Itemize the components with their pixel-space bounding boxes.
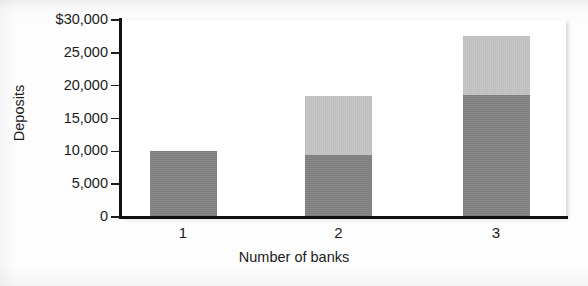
y-axis-tick [111, 52, 120, 54]
bar [150, 151, 217, 217]
bar-segment [305, 155, 372, 217]
y-axis-tick-label: 0 [0, 208, 108, 224]
y-axis-tick-label: 5,000 [0, 175, 108, 191]
x-axis-line [119, 216, 568, 219]
y-axis-title: Deposits [11, 63, 27, 163]
y-axis-tick [111, 216, 120, 218]
bar-chart-figure: 05,00010,00015,00020,00025,000$30,000 12… [0, 0, 588, 286]
bar [305, 96, 372, 217]
y-axis-tick-label: $30,000 [0, 11, 108, 27]
y-axis-tick-label: 25,000 [0, 44, 108, 60]
bar [463, 36, 530, 217]
y-axis-tick [111, 85, 120, 87]
y-axis-tick [111, 183, 120, 185]
x-axis-tick-label: 1 [153, 224, 213, 241]
x-axis-title: Number of banks [0, 249, 588, 265]
y-axis-tick [111, 151, 120, 153]
bar-segment [305, 96, 372, 155]
bar-segment [463, 36, 530, 94]
x-axis-tick-label: 2 [309, 224, 369, 241]
bar-segment [150, 151, 217, 217]
y-axis-tick [111, 118, 120, 120]
y-axis-tick [111, 19, 120, 21]
x-axis-tick-label: 3 [466, 224, 526, 241]
bar-segment [463, 95, 530, 217]
